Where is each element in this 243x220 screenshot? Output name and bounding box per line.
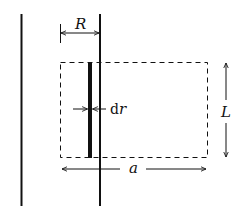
- dr-label: dr: [110, 100, 127, 118]
- radius-label: R: [74, 15, 86, 33]
- dashed-area-rectangle: [61, 63, 208, 158]
- length-dimension: L: [220, 63, 231, 157]
- width-label: a: [129, 159, 138, 177]
- strip-dr: [88, 62, 92, 158]
- radius-dimension: R: [61, 15, 100, 43]
- cylinder-flux-diagram: R dr L a: [0, 0, 243, 220]
- length-label: L: [220, 103, 231, 121]
- width-dimension: a: [62, 159, 206, 177]
